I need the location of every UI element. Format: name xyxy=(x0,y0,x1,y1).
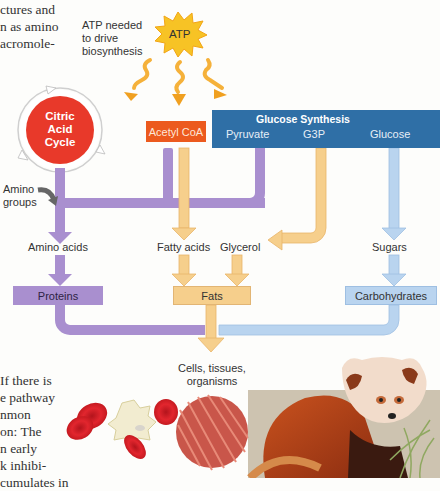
label-line: groups xyxy=(3,196,37,209)
label-line: organisms xyxy=(176,375,248,388)
amino-acids-label: Amino acids xyxy=(28,241,88,253)
carbohydrates-box: Carbohydrates xyxy=(345,286,437,305)
fatty-acids-label: Fatty acids xyxy=(157,241,210,253)
glycerol-label: Glycerol xyxy=(220,241,260,253)
arrowhead xyxy=(124,92,138,101)
red-panda-image xyxy=(248,357,440,478)
step-glucose: Glucose xyxy=(370,128,410,140)
label-line: Cells, tissues, xyxy=(176,362,248,375)
proteins-box: Proteins xyxy=(13,286,103,305)
step-g3p: G3P xyxy=(303,128,325,140)
step-pyruvate: Pyruvate xyxy=(226,128,269,140)
arrowhead xyxy=(214,89,227,99)
citric-line: Citric xyxy=(30,110,90,123)
glucose-synthesis-title: Glucose Synthesis xyxy=(256,113,350,125)
fats-box: Fats xyxy=(173,286,251,305)
arrowhead xyxy=(172,94,186,106)
atp-label: ATP xyxy=(169,28,191,40)
cells-tissues-organisms-label: Cells, tissues, organisms xyxy=(176,362,248,388)
amino-groups-label: Amino groups xyxy=(3,183,37,209)
atp-caption: ATP needed to drive biosynthesis xyxy=(82,19,143,58)
citric-line: Acid xyxy=(30,123,90,136)
glucose-synthesis-box: Glucose Synthesis Pyruvate G3P Glucose xyxy=(212,110,440,148)
acetyl-coa-box: Acetyl CoA xyxy=(146,121,206,142)
atp-energy-arrows-icon xyxy=(134,60,222,92)
muscle-tissue-image xyxy=(176,395,248,470)
sugars-label: Sugars xyxy=(372,241,407,253)
label-line: Amino xyxy=(3,183,37,196)
citric-acid-cycle: Citric Acid Cycle xyxy=(30,110,90,149)
caption-line: biosynthesis xyxy=(82,45,143,58)
red-blood-cells-image xyxy=(62,398,178,463)
citric-line: Cycle xyxy=(30,136,90,149)
caption-line: to drive xyxy=(82,32,143,45)
caption-line: ATP needed xyxy=(82,19,143,32)
